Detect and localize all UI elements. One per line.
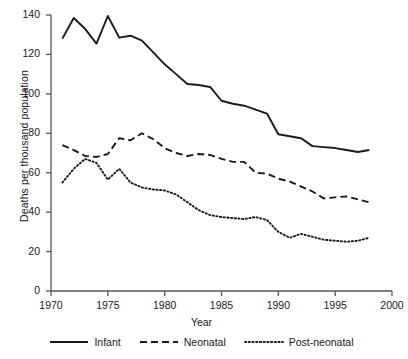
y-tick-label: 100 — [10, 87, 40, 99]
legend-swatch-dashed — [139, 337, 179, 347]
x-tick-label: 1970 — [29, 299, 73, 311]
legend-label: Infant — [94, 336, 120, 348]
x-tick-label: 1980 — [143, 299, 187, 311]
legend-label: Neonatal — [184, 336, 226, 348]
series-line-post-neonatal — [62, 159, 369, 242]
y-tick-label: 60 — [10, 166, 40, 178]
data-series — [62, 16, 369, 242]
x-tick-label: 1985 — [200, 299, 244, 311]
y-tick-label: 0 — [10, 284, 40, 296]
y-tick-label: 40 — [10, 205, 40, 217]
y-tick-label: 80 — [10, 126, 40, 138]
axes — [46, 15, 392, 296]
legend-item-infant[interactable]: Infant — [49, 336, 120, 348]
legend-swatch-solid — [49, 337, 89, 347]
x-axis-label: Year — [0, 316, 403, 328]
x-tick-label: 1975 — [86, 299, 130, 311]
y-tick-label: 20 — [10, 245, 40, 257]
legend-item-neonatal[interactable]: Neonatal — [139, 336, 226, 348]
y-tick-label: 140 — [10, 8, 40, 20]
series-line-neonatal — [62, 133, 369, 202]
legend-label: Post-neonatal — [289, 336, 354, 348]
chart-legend: InfantNeonatalPost-neonatal — [0, 336, 403, 348]
y-axis-label: Deaths per thousand population — [18, 26, 30, 266]
x-tick-label: 2000 — [370, 299, 408, 311]
series-line-infant — [62, 16, 369, 152]
legend-swatch-dotted — [244, 337, 284, 347]
x-tick-label: 1990 — [256, 299, 300, 311]
x-tick-label: 1995 — [313, 299, 357, 311]
y-tick-label: 120 — [10, 47, 40, 59]
legend-item-post-neonatal[interactable]: Post-neonatal — [244, 336, 354, 348]
